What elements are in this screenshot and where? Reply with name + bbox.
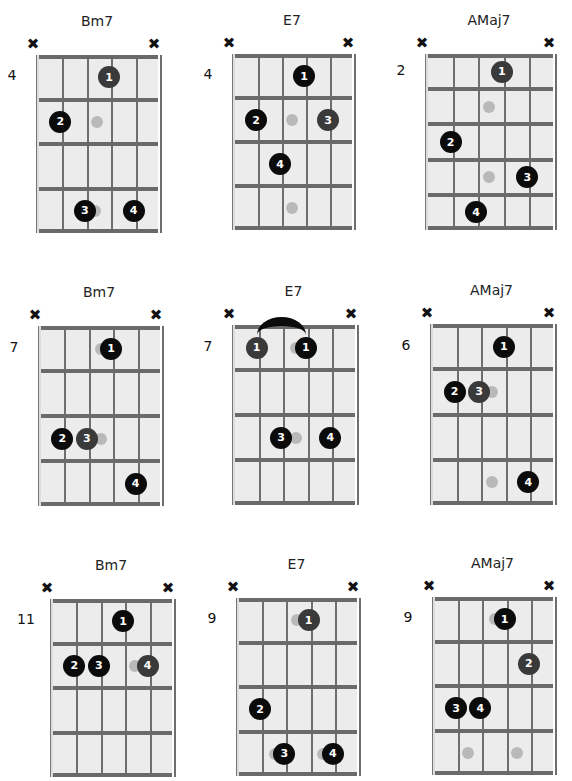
string-line: [555, 54, 557, 230]
muted-string-icon: ✖: [223, 307, 236, 322]
fret-line: [39, 98, 158, 102]
start-fret-number: 4: [204, 66, 213, 82]
fret-line: [435, 729, 553, 733]
start-fret-number: 9: [404, 609, 413, 625]
ghost-note-marker: [483, 171, 495, 183]
chord-name: E7: [226, 556, 367, 572]
fret-line: [239, 685, 357, 689]
chord-name: AMaj7: [420, 282, 563, 298]
muted-string-icon: ✖: [347, 580, 360, 595]
muted-string-icon: ✖: [41, 581, 54, 596]
fret-line: [433, 501, 553, 505]
fret-line: [53, 599, 172, 603]
finger-dot-2: 2: [440, 131, 462, 153]
finger-dot-3: 3: [76, 428, 98, 450]
ghost-note-marker: [483, 101, 495, 113]
fret-line: [428, 54, 553, 58]
fret-line: [235, 184, 352, 188]
finger-dot-1: 1: [100, 338, 122, 360]
finger-dot-3: 3: [88, 655, 110, 677]
muted-string-icon: ✖: [543, 579, 556, 594]
finger-dot-2: 2: [63, 655, 85, 677]
fret-line: [39, 229, 158, 233]
string-line: [162, 326, 164, 506]
finger-dot-4: 4: [125, 473, 147, 495]
finger-dot-3: 3: [74, 200, 96, 222]
finger-dot-3: 3: [317, 109, 339, 131]
ghost-note-marker: [91, 116, 103, 128]
finger-dot-4: 4: [123, 200, 145, 222]
string-line: [359, 598, 361, 776]
fret-line: [235, 458, 355, 462]
string-line: [357, 325, 359, 505]
string-line: [529, 54, 531, 230]
muted-string-icon: ✖: [227, 580, 240, 595]
fret-line: [239, 598, 357, 602]
fret-line: [53, 642, 172, 646]
finger-dot-1: 1: [293, 65, 315, 87]
finger-dot-1: 1: [491, 61, 513, 83]
finger-dot-3: 3: [445, 697, 467, 719]
fret-line: [239, 641, 357, 645]
fret-line: [235, 501, 355, 505]
fret-line: [235, 140, 352, 144]
fret-line: [435, 597, 553, 601]
finger-dot-2: 2: [249, 698, 271, 720]
fret-line: [433, 324, 553, 328]
finger-dot-1: 1: [112, 610, 134, 632]
finger-dot-4: 4: [137, 655, 159, 677]
fret-line: [235, 413, 355, 417]
fret-line: [41, 414, 160, 418]
muted-string-icon: ✖: [421, 306, 434, 321]
finger-dot-2: 2: [444, 381, 466, 403]
fret-line: [41, 369, 160, 373]
fret-line: [433, 413, 553, 417]
chord-name: AMaj7: [415, 12, 563, 28]
start-fret-number: 6: [402, 337, 411, 353]
fret-line: [235, 368, 355, 372]
muted-string-icon: ✖: [150, 308, 163, 323]
finger-dot-4: 4: [469, 697, 491, 719]
finger-dot-1: 1: [246, 337, 268, 359]
muted-string-icon: ✖: [543, 306, 556, 321]
fret-line: [428, 193, 553, 197]
finger-dot-3: 3: [468, 381, 490, 403]
finger-dot-4: 4: [322, 743, 344, 765]
fret-line: [235, 96, 352, 100]
fret-line: [239, 730, 357, 734]
fret-line: [435, 640, 553, 644]
chord-name: Bm7: [26, 13, 168, 29]
chord-name: Bm7: [28, 284, 170, 300]
start-fret-number: 7: [10, 339, 19, 355]
finger-dot-4: 4: [269, 153, 291, 175]
chord-name: AMaj7: [422, 555, 563, 571]
fret-line: [239, 772, 357, 776]
fret-line: [39, 187, 158, 191]
muted-string-icon: ✖: [423, 579, 436, 594]
fret-line: [428, 158, 553, 162]
muted-string-icon: ✖: [29, 308, 42, 323]
fret-line: [235, 226, 352, 230]
finger-dot-2: 2: [51, 428, 73, 450]
finger-dot-1: 1: [298, 609, 320, 631]
muted-string-icon: ✖: [543, 36, 556, 51]
muted-string-icon: ✖: [223, 36, 236, 51]
muted-string-icon: ✖: [416, 36, 429, 51]
fret-line: [53, 686, 172, 690]
finger-dot-2: 2: [245, 109, 267, 131]
fret-line: [433, 458, 553, 462]
string-line: [160, 55, 162, 233]
finger-dot-3: 3: [270, 427, 292, 449]
finger-dot-1: 1: [494, 608, 516, 630]
muted-string-icon: ✖: [27, 37, 40, 52]
finger-dot-3: 3: [273, 743, 295, 765]
start-fret-number: 11: [17, 611, 35, 627]
fret-line: [433, 367, 553, 371]
string-line: [354, 54, 356, 230]
chord-name: E7: [222, 283, 365, 299]
fret-line: [39, 55, 158, 59]
chord-name: E7: [222, 12, 362, 28]
finger-dot-4: 4: [517, 471, 539, 493]
fret-line: [39, 142, 158, 146]
finger-dot-3: 3: [516, 166, 538, 188]
